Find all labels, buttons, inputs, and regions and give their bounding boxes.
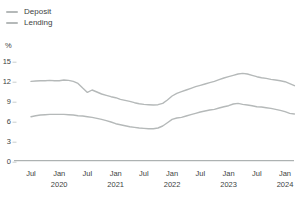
chart-svg: 03691215JulJan2020JulJan2021JulJan2022Ju…: [0, 0, 300, 197]
y-tick-label: 15: [3, 57, 11, 66]
x-tick-month: Jul: [196, 169, 206, 178]
y-tick-label: 12: [3, 77, 11, 86]
y-tick-label: 3: [7, 137, 11, 146]
x-tick-month: Jul: [26, 169, 36, 178]
x-tick-year: 2024: [277, 180, 294, 189]
x-tick-year: 2020: [51, 180, 68, 189]
y-tick-label: 0: [7, 157, 11, 166]
x-tick-year: 2023: [220, 180, 237, 189]
lending-line: [31, 73, 294, 105]
x-tick-month: Jan: [53, 169, 65, 178]
deposit-line: [31, 103, 294, 128]
x-tick-month: Jan: [110, 169, 122, 178]
x-tick-month: Jan: [279, 169, 291, 178]
y-tick-label: 6: [7, 117, 11, 126]
x-tick-year: 2021: [107, 180, 124, 189]
x-tick-month: Jul: [252, 169, 262, 178]
x-tick-month: Jul: [139, 169, 149, 178]
rates-line-chart: Deposit Lending % 03691215JulJan2020JulJ…: [0, 0, 300, 197]
x-tick-year: 2022: [164, 180, 181, 189]
x-tick-month: Jul: [83, 169, 93, 178]
x-tick-month: Jan: [223, 169, 235, 178]
x-tick-month: Jan: [166, 169, 178, 178]
y-tick-label: 9: [7, 97, 11, 106]
